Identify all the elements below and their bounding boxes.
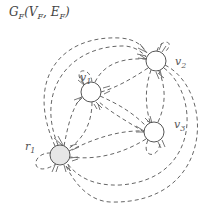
arrowhead-icon [70,157,78,161]
arrowhead-icon [145,116,152,123]
nodes [50,51,166,165]
label-v3: v3 [174,118,185,133]
label-r1-sub: 1 [30,146,35,155]
node-v2[interactable] [146,51,166,71]
edge-v3-r1 [70,139,146,158]
label-v2: v2 [175,55,186,70]
arrowhead-icon [159,43,166,52]
label-v2-sub: 2 [181,61,186,70]
arrowhead-icon [64,164,71,172]
label-v3-sub: 3 [180,124,185,133]
graph-canvas [0,0,222,217]
edge-r1-v1 [64,96,82,146]
label-r1: r1 [25,140,35,155]
node-r1[interactable] [50,145,70,165]
edge-v2-v1 [101,68,148,92]
node-v3[interactable] [144,122,164,142]
label-v1-sub: 1 [86,77,91,86]
arrowhead-icon [103,86,110,94]
arrowhead-icon [52,165,58,172]
edge-v1-v2 [95,59,146,82]
edge-v1-v3 [100,96,146,126]
label-v1: v1 [80,71,91,86]
edge-r1-v3 [69,131,144,151]
edge-v3-v1 [98,101,144,132]
arrowhead-icon [137,44,146,56]
edge-v2-v3 [146,70,151,122]
